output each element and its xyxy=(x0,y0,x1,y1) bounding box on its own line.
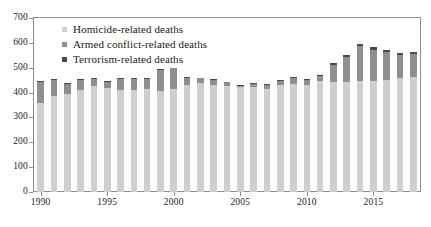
bar-stack xyxy=(104,81,111,192)
bar-segment xyxy=(77,90,84,192)
y-axis-tick-label: 300 xyxy=(13,113,28,123)
bar-segment xyxy=(357,46,364,81)
bar-stack xyxy=(397,53,404,192)
bar-stack xyxy=(117,78,124,192)
bar-segment xyxy=(51,96,58,192)
x-axis-tick-mark xyxy=(373,192,374,196)
x-axis-tick-mark xyxy=(107,192,108,196)
y-axis-tick-label: 0 xyxy=(23,187,28,197)
bar-stack xyxy=(264,84,271,192)
bar-stack xyxy=(410,52,417,192)
y-axis-tick-mark xyxy=(29,192,33,193)
x-axis-tick-label: 2005 xyxy=(230,198,250,208)
x-axis-tick-mark xyxy=(41,192,42,196)
stacked-bar-chart: 0100200300400500600700 Homicide-related … xyxy=(0,0,431,227)
bar-segment xyxy=(304,85,311,192)
bar-segment xyxy=(397,78,404,192)
y-axis-tick-label: 200 xyxy=(13,138,28,148)
x-axis-tick-label: 1995 xyxy=(97,198,117,208)
bar-segment xyxy=(104,88,111,192)
bar-stack xyxy=(37,81,44,192)
legend-item: Homicide-related deaths xyxy=(62,22,207,37)
bar-segment xyxy=(250,87,257,192)
bar-segment xyxy=(317,81,324,192)
bar-segment xyxy=(157,70,164,91)
y-axis-tick-label: 600 xyxy=(13,38,28,48)
bar-stack xyxy=(144,78,151,192)
bar-stack xyxy=(77,79,84,192)
bar-segment xyxy=(237,87,244,192)
bar-stack xyxy=(304,79,311,192)
bar-segment xyxy=(224,86,231,192)
bar-stack xyxy=(170,68,177,192)
bar-stack xyxy=(317,75,324,192)
legend-swatch-icon xyxy=(62,27,67,32)
x-axis-tick-label: 1990 xyxy=(31,198,51,208)
bar-segment xyxy=(170,89,177,192)
bar-segment xyxy=(410,54,417,77)
legend-item-label: Terrorism-related deaths xyxy=(73,54,183,65)
bar-stack xyxy=(210,79,217,192)
bar-segment xyxy=(170,68,177,89)
bar-segment xyxy=(383,80,390,192)
bar-segment xyxy=(117,90,124,192)
chart-legend: Homicide-related deathsArmed conflict-re… xyxy=(62,22,207,67)
bar-segment xyxy=(144,79,151,89)
bar-stack xyxy=(370,47,377,192)
bar-segment xyxy=(210,85,217,192)
bar-stack xyxy=(91,78,98,192)
y-axis-tick-mark xyxy=(29,68,33,69)
bar-stack xyxy=(330,63,337,192)
y-axis-tick-label: 700 xyxy=(13,13,28,23)
legend-item-label: Homicide-related deaths xyxy=(73,24,183,35)
x-axis-tick-mark xyxy=(307,192,308,196)
bar-stack xyxy=(51,79,58,192)
legend-item-label: Armed conflict-related deaths xyxy=(73,39,207,50)
bar-segment xyxy=(290,84,297,192)
y-axis-tick-mark xyxy=(29,43,33,44)
bar-segment xyxy=(117,79,124,90)
bar-segment xyxy=(343,82,350,192)
bar-segment xyxy=(37,103,44,192)
bar-segment xyxy=(91,79,98,86)
y-axis-tick-label: 100 xyxy=(13,162,28,172)
bar-segment xyxy=(157,91,164,192)
bar-stack xyxy=(184,77,191,192)
bar-segment xyxy=(264,89,271,192)
bar-stack xyxy=(157,69,164,192)
y-axis-tick-mark xyxy=(29,18,33,19)
x-axis-tick-label: 2010 xyxy=(297,198,317,208)
bar-stack xyxy=(250,83,257,192)
bar-stack xyxy=(343,55,350,192)
y-axis-tick-mark xyxy=(29,93,33,94)
bar-segment xyxy=(197,83,204,192)
bar-segment xyxy=(410,77,417,192)
legend-item: Armed conflict-related deaths xyxy=(62,37,207,52)
bar-segment xyxy=(357,81,364,192)
bar-stack xyxy=(131,78,138,192)
bar-segment xyxy=(383,52,390,80)
bar-segment xyxy=(64,94,71,192)
legend-item: Terrorism-related deaths xyxy=(62,52,207,67)
bar-segment xyxy=(91,86,98,192)
y-axis-tick-mark xyxy=(29,167,33,168)
y-axis-tick-label: 500 xyxy=(13,63,28,73)
x-axis-tick-mark xyxy=(174,192,175,196)
bar-stack xyxy=(64,83,71,192)
bar-segment xyxy=(184,85,191,192)
legend-swatch-icon xyxy=(62,57,67,62)
bar-stack xyxy=(237,85,244,192)
x-axis-tick-mark xyxy=(240,192,241,196)
bar-segment xyxy=(64,84,71,95)
bar-segment xyxy=(330,82,337,192)
bar-segment xyxy=(37,82,44,103)
bar-segment xyxy=(144,89,151,192)
bar-stack xyxy=(224,82,231,192)
bar-segment xyxy=(51,80,58,96)
bar-stack xyxy=(383,50,390,192)
bar-segment xyxy=(277,85,284,192)
y-axis-tick-mark xyxy=(29,142,33,143)
bar-segment xyxy=(131,79,138,90)
bar-segment xyxy=(370,81,377,192)
x-axis-tick-label: 2015 xyxy=(364,198,384,208)
